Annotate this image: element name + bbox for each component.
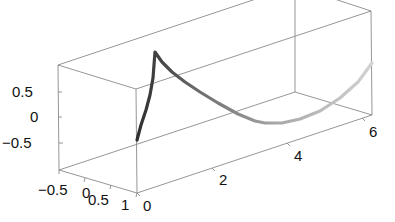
z-tick-label: 0.5 <box>12 83 33 100</box>
y-tick-label: 1 <box>121 196 129 213</box>
box-edge-top-right <box>295 0 371 11</box>
x-tick-label: 2 <box>219 171 227 188</box>
y-tick-label: 0.5 <box>88 191 109 208</box>
box-edge-front-top <box>136 11 371 89</box>
y-axis-labels: −0.5 0 0.5 1 <box>38 181 129 213</box>
z-axis-labels: 0.5 0 −0.5 <box>2 83 38 151</box>
box-edge-front-bottom <box>137 115 372 193</box>
axes-box <box>58 0 372 193</box>
3d-line-plot: 0.5 0 −0.5 −0.5 0 0.5 1 0 2 4 6 <box>0 0 395 222</box>
box-edge-left-top <box>58 65 136 89</box>
tick-marks <box>58 92 365 197</box>
x-axis-labels: 0 2 4 6 <box>143 123 377 214</box>
box-edge-back-top <box>58 0 295 65</box>
x-tick-label: 4 <box>294 147 302 164</box>
x-tick-label: 6 <box>369 123 377 140</box>
box-edge-back-bottom <box>59 92 295 170</box>
y-tick-label: −0.5 <box>38 181 68 198</box>
box-edge-left-vertical <box>58 65 59 170</box>
x-tick-label: 0 <box>143 197 151 214</box>
z-tick-label: 0 <box>30 108 38 125</box>
z-tick-label: −0.5 <box>2 134 32 151</box>
box-edge-left-bottom <box>59 170 137 193</box>
